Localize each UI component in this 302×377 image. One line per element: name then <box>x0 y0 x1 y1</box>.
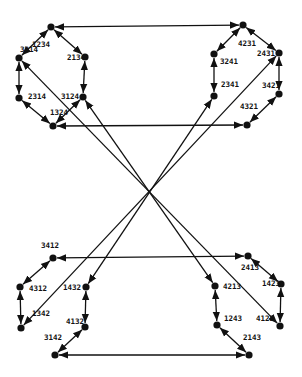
node-label-1342: 1342 <box>32 309 50 318</box>
node-2431 <box>275 49 282 56</box>
edge-4312-1342 <box>20 291 21 324</box>
node-4213 <box>211 282 218 289</box>
node-4231 <box>239 21 246 28</box>
node-label-1423: 1423 <box>262 279 281 288</box>
node-1234 <box>47 23 54 30</box>
long-edge-2413-3412 <box>57 256 244 258</box>
node-3241 <box>210 50 217 57</box>
node-3142 <box>51 351 58 358</box>
node-label-2314: 2314 <box>28 92 47 101</box>
node-4123 <box>276 322 283 329</box>
node-2314 <box>15 94 22 101</box>
node-label-3412: 3412 <box>41 241 59 250</box>
node-1432 <box>82 283 89 290</box>
node-3124 <box>79 93 86 100</box>
node-label-4312: 4312 <box>29 284 47 293</box>
node-label-4321: 4321 <box>240 102 259 111</box>
node-label-2413: 2413 <box>241 263 260 272</box>
edge-1324-2314 <box>22 101 50 124</box>
permutation-graph: 1234213432142314312413244231324124312341… <box>0 0 302 377</box>
node-2341 <box>210 92 217 99</box>
edge-4231-3241 <box>217 28 240 51</box>
node-label-4132: 4132 <box>66 317 84 326</box>
node-4321 <box>243 121 250 128</box>
node-3412 <box>49 254 56 261</box>
node-label-3421: 3421 <box>262 81 281 90</box>
node-label-1324: 1324 <box>50 108 69 117</box>
node-label-2431: 2431 <box>257 49 276 58</box>
node-3214 <box>15 54 22 61</box>
long-edge-4231-1234 <box>55 25 239 27</box>
node-2143 <box>245 351 252 358</box>
edge-2134-3124 <box>83 61 85 93</box>
node-label-4231: 4231 <box>238 39 257 48</box>
edge-1423-4123 <box>280 288 281 322</box>
node-1342 <box>17 324 24 331</box>
edges <box>19 25 281 355</box>
node-label-1243: 1243 <box>224 314 243 323</box>
edge-1432-4132 <box>85 291 86 323</box>
node-label-2143: 2143 <box>243 333 262 342</box>
node-1324 <box>49 122 56 129</box>
node-3421 <box>275 90 282 97</box>
node-label-3124: 3124 <box>61 92 80 101</box>
node-label-4123: 4123 <box>256 314 275 323</box>
node-label-2341: 2341 <box>221 80 240 89</box>
node-label-1432: 1432 <box>63 283 81 292</box>
node-label-3241: 3241 <box>220 57 239 66</box>
node-label-2134: 2134 <box>67 53 86 62</box>
node-label-3214: 3214 <box>20 45 39 54</box>
node-4312 <box>16 283 23 290</box>
node-2413 <box>244 252 251 259</box>
node-label-3142: 3142 <box>44 333 62 342</box>
node-label-4213: 4213 <box>223 282 242 291</box>
edge-4213-1243 <box>215 290 217 321</box>
node-1243 <box>213 321 220 328</box>
edge-3412-4312 <box>23 261 50 285</box>
edge-1234-2134 <box>54 30 82 55</box>
